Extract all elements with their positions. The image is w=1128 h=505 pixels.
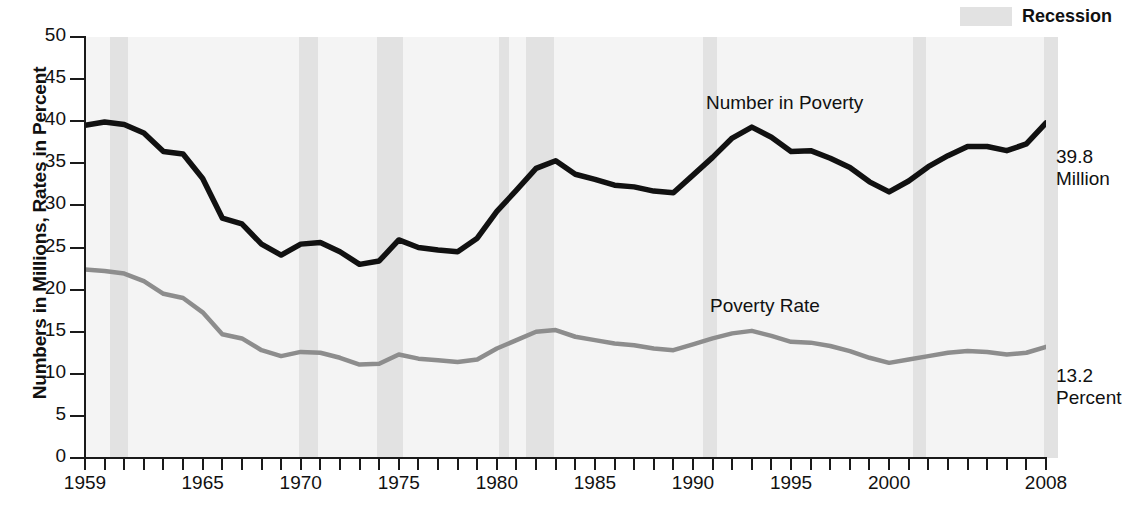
x-tick-label: 1959: [50, 472, 120, 494]
x-tick: [143, 459, 145, 470]
x-tick: [653, 459, 655, 470]
x-tick: [437, 459, 439, 470]
x-tick: [457, 459, 459, 470]
x-tick: [241, 459, 243, 470]
x-tick-label: 1995: [756, 472, 826, 494]
x-tick: [868, 459, 870, 470]
legend: Recession: [960, 6, 1112, 27]
x-tick: [476, 459, 478, 470]
y-tick-label: 5: [6, 403, 66, 425]
x-tick: [202, 459, 204, 470]
y-tick: [70, 289, 85, 291]
y-tick-label: 35: [6, 150, 66, 172]
end-unit-number: Million: [1056, 168, 1110, 190]
y-tick-label: 45: [6, 66, 66, 88]
x-tick: [712, 459, 714, 470]
poverty-rate-line: [85, 269, 1046, 364]
x-tick-label: 1970: [266, 472, 336, 494]
x-tick: [633, 459, 635, 470]
x-axis-line: [84, 457, 1047, 459]
x-tick: [1045, 459, 1047, 470]
y-tick-label: 50: [6, 24, 66, 46]
x-tick: [104, 459, 106, 470]
y-tick: [70, 36, 85, 38]
x-tick: [888, 459, 890, 470]
x-tick: [221, 459, 223, 470]
y-tick-label: 25: [6, 235, 66, 257]
number-in-poverty-line: [85, 122, 1046, 264]
y-tick: [70, 78, 85, 80]
x-tick: [751, 459, 753, 470]
x-tick: [535, 459, 537, 470]
y-tick: [70, 415, 85, 417]
x-tick-label: 1975: [364, 472, 434, 494]
x-tick: [986, 459, 988, 470]
x-tick: [123, 459, 125, 470]
series-label-number-in-poverty: Number in Poverty: [706, 92, 863, 114]
x-tick: [731, 459, 733, 470]
legend-label-recession: Recession: [1022, 6, 1112, 27]
x-tick: [280, 459, 282, 470]
y-tick: [70, 331, 85, 333]
x-tick: [1025, 459, 1027, 470]
y-tick-label: 0: [6, 445, 66, 467]
x-tick-label: 1965: [168, 472, 238, 494]
x-tick: [319, 459, 321, 470]
x-tick-label: 1990: [658, 472, 728, 494]
x-tick: [339, 459, 341, 470]
x-tick: [359, 459, 361, 470]
x-tick: [908, 459, 910, 470]
x-tick: [417, 459, 419, 470]
x-tick: [947, 459, 949, 470]
x-tick-label: 2000: [854, 472, 924, 494]
end-annotation-poverty-rate: 13.2 Percent: [1056, 365, 1121, 410]
series-label-poverty-rate: Poverty Rate: [710, 295, 820, 317]
end-value-rate: 13.2: [1056, 365, 1121, 387]
x-tick: [574, 459, 576, 470]
y-tick-label: 10: [6, 361, 66, 383]
poverty-chart-figure: Numbers in Millions, Rates in Percent 05…: [0, 0, 1128, 505]
y-tick: [70, 373, 85, 375]
x-tick-label: 1980: [462, 472, 532, 494]
x-tick: [829, 459, 831, 470]
plot-area: [85, 37, 1046, 458]
y-tick-label: 30: [6, 192, 66, 214]
end-value-number: 39.8: [1056, 146, 1110, 168]
x-tick: [515, 459, 517, 470]
y-tick: [70, 120, 85, 122]
x-tick: [594, 459, 596, 470]
x-tick: [300, 459, 302, 470]
x-tick: [1006, 459, 1008, 470]
x-tick: [261, 459, 263, 470]
x-tick: [927, 459, 929, 470]
y-tick-label: 20: [6, 277, 66, 299]
x-tick: [378, 459, 380, 470]
x-tick: [182, 459, 184, 470]
x-tick: [614, 459, 616, 470]
x-tick: [810, 459, 812, 470]
x-tick: [672, 459, 674, 470]
end-annotation-number-in-poverty: 39.8 Million: [1056, 146, 1110, 191]
x-tick: [555, 459, 557, 470]
x-tick: [84, 459, 86, 470]
x-tick: [398, 459, 400, 470]
y-tick: [70, 457, 85, 459]
y-tick-label: 40: [6, 108, 66, 130]
x-tick: [849, 459, 851, 470]
x-tick: [967, 459, 969, 470]
x-tick-label: 2008: [1011, 472, 1081, 494]
recession-swatch: [960, 7, 1012, 26]
x-tick: [790, 459, 792, 470]
x-tick: [692, 459, 694, 470]
x-tick-label: 1985: [560, 472, 630, 494]
y-tick: [70, 247, 85, 249]
x-tick: [496, 459, 498, 470]
y-tick: [70, 162, 85, 164]
series-lines: [85, 37, 1046, 458]
y-tick: [70, 204, 85, 206]
y-tick-label: 15: [6, 319, 66, 341]
end-unit-rate: Percent: [1056, 387, 1121, 409]
x-tick: [162, 459, 164, 470]
x-tick: [770, 459, 772, 470]
